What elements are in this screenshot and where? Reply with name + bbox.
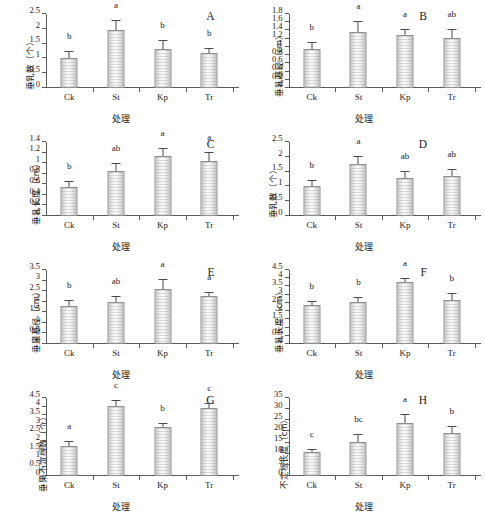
x-tick bbox=[139, 88, 140, 92]
y-tick bbox=[285, 397, 289, 398]
error-bar bbox=[209, 49, 210, 53]
x-tick-label: Tr bbox=[448, 481, 456, 490]
chart-panel-c: C垂乳长度（cm）处理00.20.40.60.811.21.4bCkabStaK… bbox=[0, 128, 243, 256]
y-tick bbox=[42, 269, 46, 270]
x-tick bbox=[93, 344, 94, 348]
bar bbox=[397, 282, 414, 344]
significance-letter: a bbox=[207, 133, 211, 142]
bar bbox=[201, 296, 218, 344]
y-tick bbox=[285, 419, 289, 420]
x-axis-label-e: 处理 bbox=[0, 371, 243, 380]
y-tick bbox=[42, 475, 46, 476]
error-bar bbox=[451, 427, 452, 432]
y-tick-label: 2.5 bbox=[29, 424, 40, 433]
error-bar-cap bbox=[205, 403, 214, 404]
error-bar bbox=[69, 442, 70, 446]
y-tick-label: 10 bbox=[274, 445, 283, 454]
x-tick-label: Ck bbox=[307, 481, 318, 490]
bar bbox=[201, 161, 218, 217]
y-tick bbox=[285, 171, 289, 172]
y-tick-label: 1.2 bbox=[29, 144, 40, 153]
x-axis-label-g: 处理 bbox=[0, 503, 243, 512]
y-tick-label: 1.5 bbox=[29, 35, 40, 44]
x-tick-label: Tr bbox=[205, 93, 213, 102]
y-tick bbox=[285, 442, 289, 443]
y-tick-label: 1 bbox=[278, 178, 282, 187]
x-tick-label: Kp bbox=[157, 349, 168, 358]
y-tick bbox=[42, 414, 46, 415]
x-tick bbox=[382, 344, 383, 348]
error-bar-cap bbox=[205, 292, 214, 293]
y-tick-label: 5 bbox=[278, 456, 282, 465]
error-bar bbox=[405, 30, 406, 35]
y-tick-label: 0.8 bbox=[29, 165, 40, 174]
y-tick-label: 4.5 bbox=[272, 262, 283, 271]
significance-letter: ab bbox=[112, 144, 121, 153]
y-axis-line bbox=[46, 142, 47, 216]
significance-letter: b bbox=[449, 407, 454, 416]
x-tick bbox=[335, 344, 336, 348]
x-tick-label: Tr bbox=[448, 93, 456, 102]
y-tick-label: 2.5 bbox=[272, 134, 283, 143]
error-bar bbox=[162, 280, 163, 290]
significance-letter: b bbox=[449, 274, 454, 283]
y-axis-line bbox=[289, 142, 290, 216]
x-tick bbox=[186, 476, 187, 480]
y-tick bbox=[42, 141, 46, 142]
y-tick bbox=[285, 277, 289, 278]
significance-letter: a bbox=[356, 2, 360, 11]
error-bar bbox=[311, 450, 312, 452]
y-tick bbox=[42, 183, 46, 184]
y-tick-label: 0.8 bbox=[272, 47, 283, 56]
y-tick-label: 30 bbox=[274, 401, 283, 410]
y-tick-label: 0.5 bbox=[29, 325, 40, 334]
x-tick bbox=[233, 344, 234, 348]
y-tick-label: 1.8 bbox=[272, 6, 283, 15]
x-tick-label: Kp bbox=[157, 93, 168, 102]
x-tick bbox=[382, 88, 383, 92]
error-bar-cap bbox=[401, 414, 410, 415]
y-tick-label: 0.5 bbox=[272, 193, 283, 202]
error-bar-cap bbox=[65, 181, 74, 182]
x-tick-label: Tr bbox=[205, 221, 213, 230]
y-tick bbox=[285, 430, 289, 431]
y-tick bbox=[285, 29, 289, 30]
x-tick-label: Kp bbox=[157, 221, 168, 230]
significance-letter: ab bbox=[447, 150, 456, 159]
x-tick bbox=[233, 88, 234, 92]
error-bar bbox=[358, 22, 359, 31]
x-axis-label-h: 处理 bbox=[243, 503, 485, 512]
significance-letter: b bbox=[310, 23, 315, 32]
x-tick-label: Kp bbox=[400, 349, 411, 358]
x-tick-label: St bbox=[112, 481, 120, 490]
bar bbox=[154, 49, 171, 88]
y-tick bbox=[42, 87, 46, 88]
y-tick bbox=[42, 449, 46, 450]
y-tick-label: 2.5 bbox=[272, 294, 283, 303]
bar bbox=[350, 442, 367, 476]
y-tick bbox=[42, 423, 46, 424]
error-bar bbox=[115, 401, 116, 405]
y-tick-label: 0.4 bbox=[272, 63, 283, 72]
error-bar-cap bbox=[158, 423, 167, 424]
y-tick bbox=[285, 310, 289, 311]
y-tick-label: 0.5 bbox=[272, 327, 283, 336]
y-tick bbox=[42, 72, 46, 73]
y-tick-label: 2 bbox=[36, 293, 40, 302]
y-tick-label: 1.4 bbox=[272, 22, 283, 31]
y-tick bbox=[42, 57, 46, 58]
error-bar bbox=[358, 298, 359, 302]
x-axis-label-a: 处理 bbox=[0, 115, 243, 124]
y-tick-label: 2.5 bbox=[29, 283, 40, 292]
error-bar bbox=[162, 424, 163, 427]
bar bbox=[107, 30, 124, 88]
y-tick-label: 0.2 bbox=[272, 71, 283, 80]
y-tick-label: 2 bbox=[36, 20, 40, 29]
y-tick-label: 3.5 bbox=[272, 278, 283, 287]
x-tick-label: St bbox=[112, 349, 120, 358]
bar bbox=[443, 38, 460, 88]
x-tick bbox=[475, 216, 476, 220]
y-tick-label: 2 bbox=[278, 148, 282, 157]
y-tick bbox=[42, 343, 46, 344]
figure-panel-grid: A垂乳数（个）处理00.511.522.5bCkaStbKpbTrB垂乳基径（c… bbox=[0, 0, 485, 520]
